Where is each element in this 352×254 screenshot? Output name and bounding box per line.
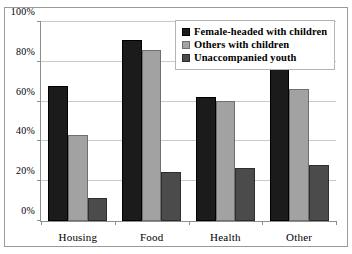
bar-housing-series-0 xyxy=(48,86,68,221)
bar-food-series-1 xyxy=(142,50,162,221)
bar-health-series-2 xyxy=(235,168,255,221)
x-tick-mark xyxy=(115,221,116,225)
chart-legend: Female-headed with childrenOthers with c… xyxy=(175,20,335,70)
bar-health-series-1 xyxy=(216,101,236,221)
y-axis-tick-label: 100% xyxy=(11,7,35,17)
bar-food-series-0 xyxy=(122,40,142,221)
legend-item-label: Female-headed with children xyxy=(194,26,327,37)
bar-group-housing xyxy=(41,22,115,221)
y-axis-tick-label: 40% xyxy=(16,126,35,136)
bar-food-series-2 xyxy=(161,172,181,221)
bar-chart: 0%20%40%60%80%100% HousingFoodHealthOthe… xyxy=(0,0,352,254)
legend-item-2: Unaccompanied youth xyxy=(182,51,327,64)
x-tick-mark xyxy=(41,221,42,225)
x-axis-category-label: Housing xyxy=(59,232,98,243)
legend-item-0: Female-headed with children xyxy=(182,25,327,38)
x-tick-mark xyxy=(189,221,190,225)
legend-swatch-icon xyxy=(182,54,190,62)
legend-swatch-icon xyxy=(182,41,190,49)
x-axis-category-label: Food xyxy=(140,232,163,243)
bar-health-series-0 xyxy=(196,97,216,221)
y-axis-tick-label: 0% xyxy=(21,206,35,216)
y-axis-tick-label: 20% xyxy=(16,166,35,176)
x-tick-mark xyxy=(262,221,263,225)
y-axis-tick-label: 80% xyxy=(16,47,35,57)
bar-housing-series-1 xyxy=(68,135,88,221)
legend-item-label: Others with children xyxy=(194,39,289,50)
legend-swatch-icon xyxy=(182,28,190,36)
bar-other-series-1 xyxy=(289,89,309,221)
bar-other-series-0 xyxy=(270,68,290,221)
legend-item-label: Unaccompanied youth xyxy=(194,52,297,63)
x-axis-category-label: Health xyxy=(210,232,241,243)
x-tick-mark xyxy=(336,221,337,225)
x-axis-category-label: Other xyxy=(286,232,312,243)
legend-item-1: Others with children xyxy=(182,38,327,51)
bar-housing-series-2 xyxy=(88,198,108,221)
y-axis-tick-label: 60% xyxy=(16,87,35,97)
bar-other-series-2 xyxy=(309,165,329,221)
